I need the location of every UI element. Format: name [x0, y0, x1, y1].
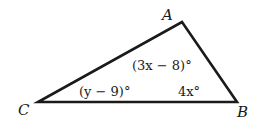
angle-label-a: (3x − 8)° [132, 58, 192, 73]
vertex-label-c: C [18, 101, 30, 119]
vertex-label-a: A [160, 6, 173, 24]
angle-label-c: (y − 9)° [79, 84, 130, 99]
vertex-label-b: B [236, 103, 248, 121]
angle-label-b: 4x° [178, 84, 200, 99]
triangle-diagram: A B C (3x − 8)° 4x° (y − 9)° [0, 0, 261, 122]
